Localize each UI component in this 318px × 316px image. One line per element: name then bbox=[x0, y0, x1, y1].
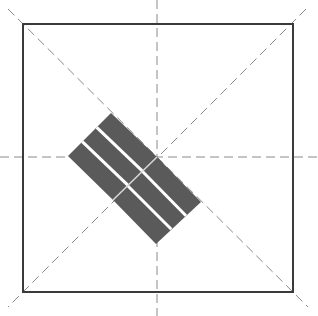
guide-lines bbox=[0, 0, 318, 316]
diagram-canvas bbox=[0, 0, 318, 316]
